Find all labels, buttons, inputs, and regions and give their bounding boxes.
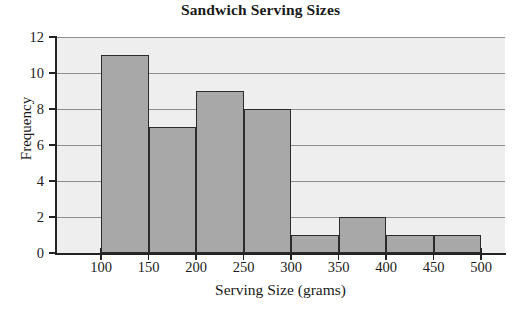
x-axis-tick-label: 100 [78,260,124,275]
histogram-bar [101,55,149,253]
x-axis-tick-label: 300 [268,260,314,275]
y-axis-tick [49,144,56,146]
gridline [56,37,505,38]
y-axis-tick-label: 12 [14,30,44,45]
x-axis-tick-label: 150 [126,260,172,275]
histogram-figure: Sandwich Serving Sizes 024681012 1001502… [0,0,521,309]
histogram-bar [434,235,482,253]
y-axis-tick [49,72,56,74]
histogram-bar [339,217,387,253]
x-axis-line [55,253,506,255]
y-axis-tick-label: 2 [14,210,44,225]
y-axis-tick [49,252,56,254]
x-axis-tick-label: 250 [221,260,267,275]
x-axis-tick-label: 200 [173,260,219,275]
y-axis-tick [49,36,56,38]
x-axis-tick-label: 400 [363,260,409,275]
y-axis-title: Frequency [18,74,35,184]
histogram-bar [196,91,244,253]
plot-area [56,37,505,253]
x-axis-tick-label: 350 [316,260,362,275]
histogram-bar [244,109,292,253]
chart-title: Sandwich Serving Sizes [0,1,521,19]
histogram-bar [291,235,339,253]
y-axis-tick [49,216,56,218]
y-axis-tick [49,180,56,182]
x-axis-tick-label: 450 [411,260,457,275]
y-axis-tick-label: 0 [14,246,44,261]
histogram-bar [149,127,197,253]
y-axis-tick [49,108,56,110]
x-axis-title: Serving Size (grams) [56,281,505,299]
histogram-bar [386,235,434,253]
x-axis-tick-label: 500 [458,260,504,275]
